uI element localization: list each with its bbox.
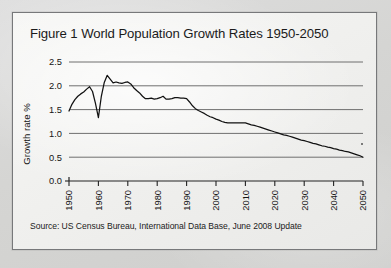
y-tick-label: 0.5 xyxy=(49,153,62,163)
x-tick-label: 2000 xyxy=(211,190,221,211)
figure-frame: Figure 1 World Population Growth Rates 1… xyxy=(12,12,377,250)
y-axis-label: Growth rate % xyxy=(21,103,32,165)
y-tick-label: 0.0 xyxy=(49,176,62,186)
y-tick-label: 2.0 xyxy=(49,81,62,91)
y-tick-label: 2.5 xyxy=(49,57,62,67)
x-tick-label: 1950 xyxy=(64,190,74,211)
x-tick-label: 1990 xyxy=(182,190,192,211)
source-note: Source: US Census Bureau, International … xyxy=(30,221,302,231)
line-chart-svg: 0.00.51.01.52.02.5 195019601970198019902… xyxy=(13,13,378,251)
y-tick-label: 1.0 xyxy=(49,129,62,139)
y-axis-ticks-group: 0.00.51.01.52.02.5 xyxy=(49,57,69,186)
x-tick-label: 2010 xyxy=(241,190,251,211)
axis-lines-group xyxy=(69,177,363,181)
x-tick-label: 1970 xyxy=(123,190,133,211)
x-tick-label: 2040 xyxy=(329,190,339,211)
gridlines-group xyxy=(69,62,363,157)
chart-plot-area: 0.00.51.01.52.02.5 195019601970198019902… xyxy=(13,13,378,251)
x-tick-label: 2020 xyxy=(270,190,280,211)
x-tick-label: 1980 xyxy=(153,190,163,211)
scan-speck xyxy=(361,143,363,145)
x-axis-ticks-group: 1950196019701980199020002010202020302040… xyxy=(64,181,368,211)
x-tick-label: 2050 xyxy=(358,190,368,211)
y-tick-label: 1.5 xyxy=(49,105,62,115)
data-series-line xyxy=(69,75,363,157)
x-tick-label: 1960 xyxy=(94,190,104,211)
x-tick-label: 2030 xyxy=(300,190,310,211)
